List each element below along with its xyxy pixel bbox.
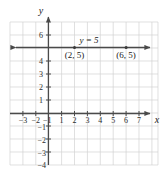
coordinate-plane-figure: −3 −2 −1 1 2 3 4 5 6 7 6 4 3 2 1 −1 −2 −… <box>0 0 166 175</box>
y-tick-label-neg2: −2 <box>37 136 46 145</box>
y-tick-label-neg1: −1 <box>37 123 46 132</box>
point-marker-6-5 <box>125 46 128 49</box>
x-tick-label-3: 3 <box>85 116 89 125</box>
equation-label: y = 5 <box>78 35 99 45</box>
y-axis-label: y <box>38 5 44 16</box>
x-tick-label-6: 6 <box>124 116 128 125</box>
y-tick-label-2: 2 <box>39 83 43 92</box>
x-tick-label-4: 4 <box>98 116 102 125</box>
graph-canvas: −3 −2 −1 1 2 3 4 5 6 7 6 4 3 2 1 −1 −2 −… <box>0 0 166 175</box>
x-tick-label-1: 1 <box>60 116 64 125</box>
y-tick-label-neg3: −3 <box>37 149 46 158</box>
x-axis-label: x <box>154 114 160 125</box>
x-tick-label-2: 2 <box>73 116 77 125</box>
x-tick-label-neg3: −3 <box>19 116 28 125</box>
y-tick-label-neg4: −4 <box>37 161 46 170</box>
y-tick-label-4: 4 <box>39 57 43 66</box>
x-tick-label-5: 5 <box>111 116 115 125</box>
point-marker-2-5 <box>73 46 76 49</box>
point-label-2-5: (2, 5) <box>65 50 85 60</box>
point-label-6-5: (6, 5) <box>116 50 136 60</box>
y-tick-label-3: 3 <box>39 70 43 79</box>
x-tick-label-7: 7 <box>137 116 141 125</box>
y-tick-label-1: 1 <box>39 96 43 105</box>
y-tick-label-6: 6 <box>39 31 43 40</box>
